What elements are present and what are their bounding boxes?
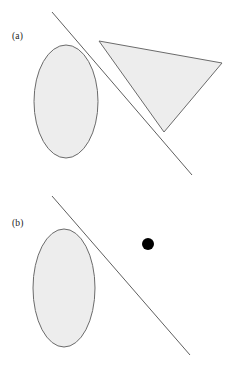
- panel-b: (b): [12, 196, 190, 355]
- figure-canvas: (a) (b): [0, 0, 234, 370]
- panel-b-ellipse-shape: [33, 229, 95, 347]
- panel-b-label: (b): [12, 218, 24, 229]
- panel-a-ellipse-shape: [34, 45, 98, 158]
- figure-container: (a) (b): [0, 0, 234, 370]
- panel-a-triangle-shape: [99, 41, 222, 132]
- panel-b-point-dot: [142, 238, 154, 250]
- panel-a-label: (a): [12, 31, 23, 42]
- panel-a: (a): [12, 12, 222, 175]
